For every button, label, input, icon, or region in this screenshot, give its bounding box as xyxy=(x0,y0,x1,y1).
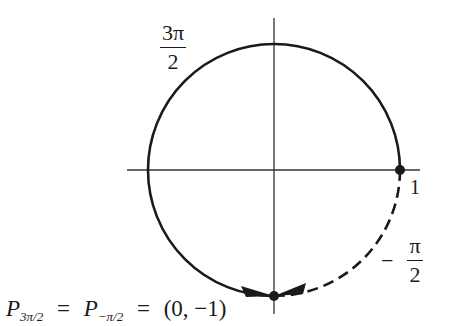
eq-p2: P xyxy=(84,296,98,321)
equation-label: P3π/2 = P−π/2 = (0, −1) xyxy=(6,296,226,325)
point-0-neg1 xyxy=(269,291,279,301)
label-3pi-numerator: 3π xyxy=(160,22,186,48)
eq-equals-2: = xyxy=(137,296,150,321)
point-1-0 xyxy=(395,165,405,175)
label-neg-pi-over-2: − π 2 xyxy=(381,235,423,286)
label-3pi-over-2: 3π 2 xyxy=(160,20,186,73)
label-pi-denominator: 2 xyxy=(409,261,420,286)
eq-p1-subscript: 3π/2 xyxy=(20,309,43,324)
label-pi-numerator: π xyxy=(407,235,422,261)
eq-equals-1: = xyxy=(57,296,70,321)
label-3pi-denominator: 2 xyxy=(168,48,179,73)
label-neg-sign: − xyxy=(381,248,393,274)
label-one: 1 xyxy=(410,176,420,199)
eq-p1: P xyxy=(6,296,20,321)
eq-p2-subscript: −π/2 xyxy=(98,309,123,324)
arrowhead-right-icon xyxy=(274,283,306,296)
eq-coordinates: (0, −1) xyxy=(164,296,227,321)
